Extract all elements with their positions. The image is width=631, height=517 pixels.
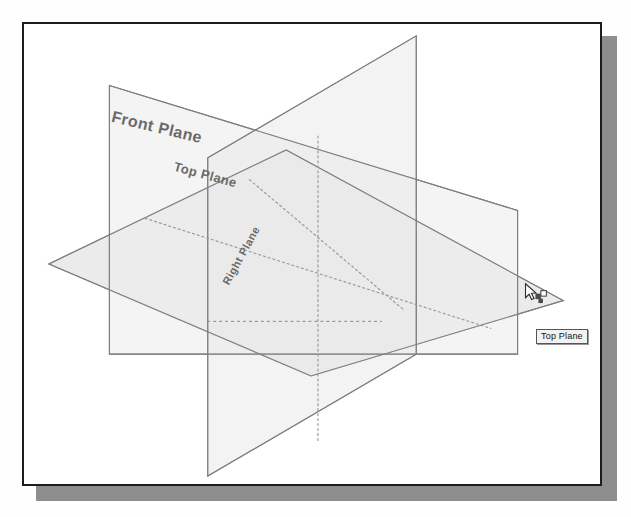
figure-frame: Front Plane Top Plane Right Plane Top Pl… <box>22 22 602 486</box>
graphics-viewport[interactable] <box>24 24 600 484</box>
cursor-face-glyph-square-3 <box>538 299 542 303</box>
hover-tooltip: Top Plane <box>536 329 588 344</box>
cursor-face-glyph-square-1 <box>535 294 540 299</box>
screenshot-root: Front Plane Top Plane Right Plane Top Pl… <box>0 0 631 517</box>
cursor-face-glyph-square-2 <box>541 291 546 296</box>
